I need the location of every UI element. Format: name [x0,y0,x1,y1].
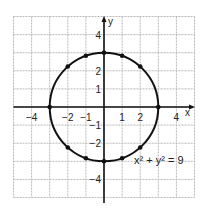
data-point [84,53,89,58]
x-tick-label: 4 [174,112,180,123]
circle-graph: −4−2−1124421−1−2−4 x² + y² = 9 x y [0,0,209,210]
data-point [66,64,71,69]
data-point [102,50,107,55]
data-point [102,159,107,164]
data-point [138,64,143,69]
data-point [47,105,52,110]
data-point [156,105,161,110]
y-tick-label: −2 [90,138,102,149]
x-tick-label: −2 [62,112,74,123]
x-tick-label: 1 [119,112,125,123]
data-point [84,156,89,161]
data-point [120,156,125,161]
x-tick-label: −4 [26,112,38,123]
y-tick-label: −4 [90,174,102,185]
data-point [66,145,71,150]
x-axis-label: x [185,107,190,118]
x-tick-label: 2 [137,112,143,123]
y-tick-label: −1 [90,120,102,131]
equation-label: x² + y² = 9 [134,154,184,166]
y-tick-label: 2 [95,66,101,77]
data-point [138,145,143,150]
y-axis-label: y [108,16,113,27]
axes [14,16,196,203]
data-point [120,53,125,58]
y-tick-label: 4 [95,30,101,41]
y-tick-label: 1 [95,84,101,95]
